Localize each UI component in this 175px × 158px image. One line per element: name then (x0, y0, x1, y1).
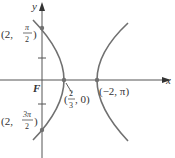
y-axis-label: y (31, 0, 37, 12)
svg-text:2: 2 (25, 122, 29, 131)
focus-label: F (32, 82, 41, 94)
svg-text:π: π (25, 23, 30, 32)
label-2-3rds-0: ( 2 3 , 0) (64, 89, 90, 110)
x-axis-label: x (165, 74, 171, 86)
label-neg2-pi: (−2, π) (99, 85, 129, 98)
y-axis-arrow-icon (39, 2, 45, 11)
point-neg2-pi (95, 78, 99, 82)
hyperbola-diagram: x y F (2, π 2 ) ( 2 3 , 0) (−2, π) (2, 3… (0, 0, 175, 158)
svg-text:2: 2 (25, 35, 29, 44)
label-2-pi-over-2: (2, π 2 ) (1, 23, 37, 44)
svg-text:): ) (34, 115, 38, 128)
svg-text:(2,: (2, (1, 28, 13, 41)
svg-text:, 0): , 0) (75, 93, 90, 106)
point-2-3rds-0 (62, 78, 66, 82)
svg-text:2: 2 (69, 89, 73, 98)
point-2-pi-over-2 (40, 26, 44, 30)
point-2-3pi-over-2 (40, 128, 44, 132)
label-2-3pi-over-2: (2, 3π 2 ) (1, 110, 38, 131)
svg-text:3π: 3π (22, 110, 32, 119)
svg-text:): ) (33, 28, 37, 41)
svg-text:(2,: (2, (1, 115, 13, 128)
svg-text:(: ( (64, 93, 68, 106)
hyperbola-right-branch (97, 23, 128, 141)
svg-text:3: 3 (69, 101, 73, 110)
